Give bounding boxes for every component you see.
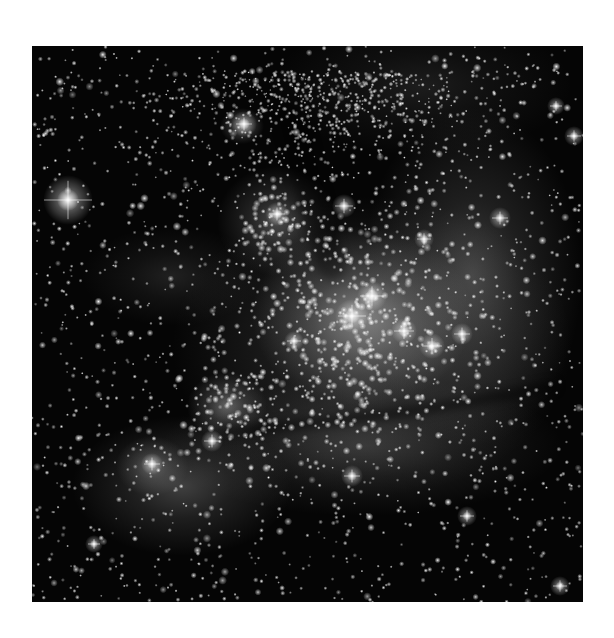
page-background bbox=[0, 0, 614, 638]
starfield-layer bbox=[32, 46, 583, 602]
nebula-photograph bbox=[32, 46, 583, 602]
